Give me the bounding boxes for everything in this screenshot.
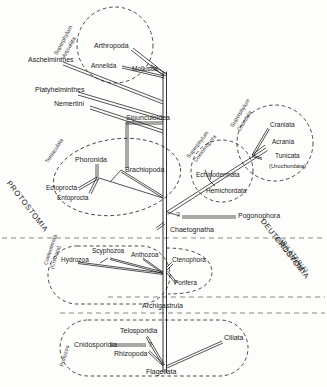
- phylogenetic-tree-figure: .ln{fill:none;stroke:#1b1b1b;stroke-widt…: [0, 0, 327, 387]
- branch-tentaculata-stem: [99, 178, 163, 198]
- branch-ectoprocta: [78, 177, 98, 190]
- taxon-ciliata: Ciliata: [224, 334, 243, 341]
- taxon-pogonophora: Pogonophora: [238, 212, 280, 219]
- taxon-tunicata: Tunicata: [275, 153, 300, 160]
- taxon-scyphozoa: Scyphozoa: [92, 248, 124, 255]
- envelope-tentaculata: [48, 130, 185, 223]
- taxon-echinodermata: Echinodermata: [196, 172, 240, 179]
- taxon-annelida: Annelida: [91, 63, 116, 70]
- taxon-acrania: Acrania: [272, 139, 294, 146]
- taxon-ectoprocta: Ectoprocta: [46, 185, 77, 192]
- taxon-cnidosporidia: Cnidosporidia: [74, 341, 117, 348]
- envelope-ctenophora-porifera: [166, 248, 212, 294]
- taxon-platyhelminthes: Platyhelminthes: [35, 86, 84, 93]
- taxon-anthozoa: Anthozoa: [131, 252, 158, 259]
- taxon-chaetognatha: Chaetognatha: [170, 226, 214, 233]
- uncertainty-mark-pogonophora: ?: [176, 211, 180, 218]
- taxon-hemichordata: Hemichordata: [206, 188, 246, 195]
- branch-sipunculoidea: [126, 122, 163, 168]
- taxon-rhizopoda: Rhizopoda: [114, 350, 147, 357]
- taxon-archigastrula: Archigastrula: [142, 302, 183, 309]
- branch-deuterostome-stem: [166, 148, 268, 215]
- taxon-mollusca: Mollusca: [132, 66, 158, 73]
- taxon-aschelminthes: Aschelminthes: [28, 56, 74, 63]
- taxon-sipunculoidea: Sipunculoidea: [126, 114, 170, 121]
- branch-chaetognatha: [156, 222, 165, 230]
- branch-ciliata: [166, 341, 223, 368]
- taxon-urochordata: (Urochordata): [269, 163, 306, 169]
- taxon-entoprocta: Entoprocta: [57, 195, 88, 202]
- taxon-phoronida: Phoronida: [75, 156, 107, 163]
- taxon-flagellata: Flagellata: [146, 368, 176, 375]
- taxon-ctenophora: Ctenophora: [172, 257, 206, 264]
- taxon-hydrozoa: Hydrozoa: [61, 257, 89, 264]
- taxon-craniata: Craniata: [270, 122, 295, 129]
- taxon-arthropoda: Arthropoda: [94, 42, 129, 49]
- taxon-porifera: Porifera: [174, 280, 197, 287]
- taxon-brachiopoda: Brachiopoda: [125, 166, 164, 173]
- uncertainty-mark-cnidosporidia: ?: [148, 341, 152, 348]
- taxon-nemertini: Nemertini: [54, 100, 84, 107]
- branch-phoronida: [96, 164, 98, 178]
- taxon-telosporidia: Telosporidia: [120, 327, 157, 334]
